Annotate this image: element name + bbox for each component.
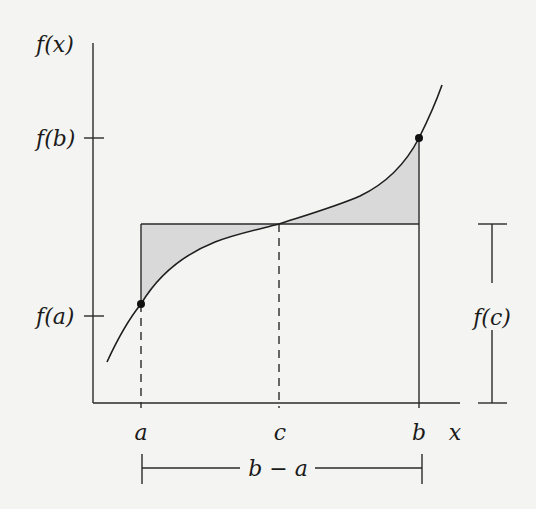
mvt-diagram: f(x) f(b) f(a) a c b x f(c) b − a [0,0,536,509]
x-tick-label-a: a [134,420,147,445]
y-tick-label-fb: f(b) [34,126,75,151]
height-bracket-label: f(c) [471,305,511,330]
x-tick-label-c: c [274,420,286,445]
shaded-region-left [141,224,279,304]
point-a [137,300,145,308]
y-axis-label: f(x) [34,32,74,57]
x-axis-label: x [449,420,462,445]
point-b [415,134,423,142]
width-bracket-label: b − a [248,456,308,481]
shaded-regions [141,138,419,304]
x-tick-label-b: b [412,420,426,445]
y-tick-label-fa: f(a) [34,304,74,329]
mean-rectangle [141,138,419,408]
shaded-region-right [279,138,419,224]
